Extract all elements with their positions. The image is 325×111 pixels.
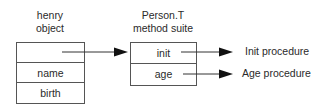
arrow-init-to-procedure xyxy=(181,48,233,57)
age-procedure-label: Age procedure xyxy=(242,67,311,79)
arrow-object-to-suite xyxy=(62,48,128,57)
arrow-age-to-procedure xyxy=(183,70,233,79)
init-procedure-label: Init procedure xyxy=(245,45,309,57)
